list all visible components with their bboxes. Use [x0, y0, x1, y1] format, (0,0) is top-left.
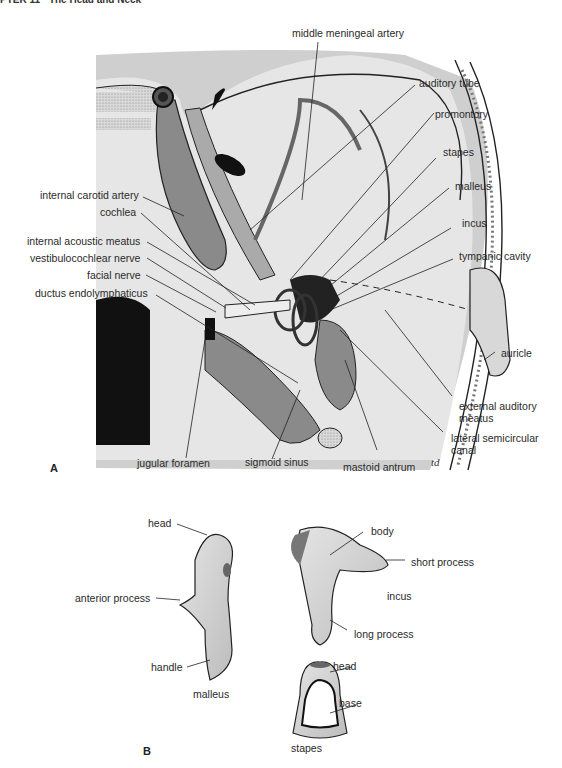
- malleus-drawing: [180, 534, 233, 680]
- label-handle: handle: [151, 661, 183, 673]
- label-malleus-head: head: [148, 517, 171, 529]
- label-jugular-foramen: jugular foramen: [137, 457, 210, 469]
- label-short-process: short process: [411, 556, 474, 568]
- label-anterior-process: anterior process: [75, 592, 150, 604]
- label-incus: incus: [462, 217, 487, 229]
- label-stapes-head: head: [333, 660, 356, 672]
- label-lateral-semicircular-canal-line1: lateral semicircular: [451, 432, 539, 444]
- panel-a-letter: A: [50, 462, 58, 474]
- label-long-process: long process: [354, 628, 414, 640]
- label-tympanic-cavity: tympanic cavity: [459, 250, 531, 262]
- label-cochlea: cochlea: [100, 206, 136, 218]
- panel-b-letter: B: [143, 745, 151, 757]
- label-stapes-base: base: [339, 697, 362, 709]
- label-auricle: auricle: [501, 347, 532, 359]
- label-malleus-name: malleus: [193, 688, 229, 700]
- label-ductus-endolymphaticus: ductus endolymphaticus: [35, 287, 148, 299]
- label-facial-nerve: facial nerve: [87, 269, 141, 281]
- label-auditory-tube: auditory tube: [419, 77, 480, 89]
- label-stapes-name: stapes: [291, 742, 322, 754]
- label-promontory: promontory: [435, 108, 488, 120]
- label-external-auditory-meatus-line1: external auditory: [459, 400, 537, 412]
- artist-signature: td: [431, 456, 440, 468]
- label-mastoid-antrum: mastoid antrum: [343, 461, 415, 473]
- label-malleus: malleus: [455, 180, 491, 192]
- label-internal-carotid-artery: internal carotid artery: [40, 189, 139, 201]
- label-sigmoid-sinus: sigmoid sinus: [245, 456, 309, 468]
- label-lateral-semicircular-canal: lateral semicircular canal: [451, 432, 539, 456]
- label-lateral-semicircular-canal-line2: canal: [451, 444, 476, 456]
- label-internal-acoustic-meatus: internal acoustic meatus: [27, 235, 140, 247]
- label-vestibulocochlear-nerve: vestibulocochlear nerve: [30, 252, 140, 264]
- label-incus-name: incus: [387, 590, 412, 602]
- label-incus-body: body: [371, 525, 394, 537]
- label-stapes: stapes: [443, 146, 474, 158]
- label-middle-meningeal-artery: middle meningeal artery: [292, 27, 404, 39]
- label-external-auditory-meatus: external auditory meatus: [459, 400, 537, 424]
- label-external-auditory-meatus-line2: meatus: [459, 412, 493, 424]
